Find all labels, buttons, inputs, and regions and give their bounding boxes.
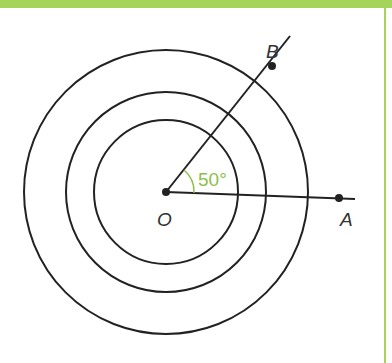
angle-arc — [184, 170, 194, 193]
label-o: O — [157, 209, 172, 230]
point-o — [162, 188, 170, 196]
concentric-circles-diagram: O A B 50° — [0, 0, 392, 363]
label-b: B — [266, 41, 279, 62]
point-b — [268, 62, 276, 70]
label-a: A — [339, 209, 353, 230]
angle-label: 50° — [198, 169, 227, 190]
point-a — [335, 194, 343, 202]
ray-oa — [166, 192, 355, 199]
